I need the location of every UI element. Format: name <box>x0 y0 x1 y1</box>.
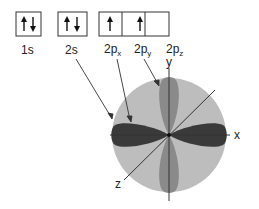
label-1s: 1s <box>21 43 34 57</box>
orbital-box-2s <box>58 12 87 36</box>
orbital-box-2p <box>99 12 169 36</box>
axis-label-x: x <box>234 128 240 142</box>
label-2py: 2py <box>134 42 151 58</box>
axis-label-y: y <box>166 55 172 69</box>
arrow-down-icon <box>74 17 80 32</box>
label-2s: 2s <box>65 43 78 57</box>
arrow-up-icon <box>64 16 70 31</box>
arrow-down-icon <box>30 17 36 32</box>
arrow-up-icon <box>21 16 27 31</box>
orbital-diagram: 1s 2s 2px 2py 2pz <box>0 0 259 209</box>
arrow-up-icon <box>107 16 113 31</box>
origin <box>167 133 171 137</box>
arrow-up-icon <box>137 16 143 31</box>
label-2px: 2px <box>104 42 121 58</box>
orbital-box-1s <box>16 12 41 36</box>
axis-label-z: z <box>115 177 121 191</box>
